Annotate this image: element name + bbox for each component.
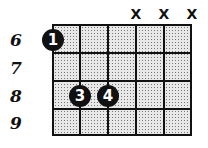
finger-dot: 1 — [42, 29, 64, 51]
fret-line — [52, 80, 192, 82]
fret-line — [52, 108, 192, 110]
fret-label: 8 — [6, 86, 26, 106]
fret-line — [52, 52, 192, 54]
muted-string-marker: X — [129, 6, 143, 22]
finger-dot: 3 — [69, 85, 91, 107]
fret-label: 6 — [6, 30, 26, 50]
fret-label: 7 — [6, 58, 26, 78]
muted-string-marker: X — [157, 6, 171, 22]
muted-string-marker: X — [185, 6, 199, 22]
fret-label: 9 — [6, 113, 26, 133]
finger-dot: 4 — [97, 85, 119, 107]
